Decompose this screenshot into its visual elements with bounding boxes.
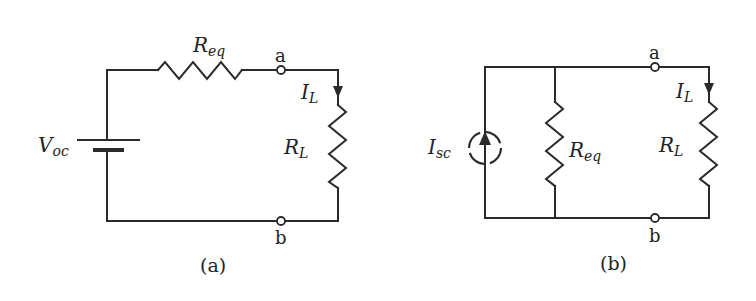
label-node-a: a <box>649 42 660 63</box>
label-voc: Voc <box>38 133 69 159</box>
resistor-rl-load <box>700 102 717 186</box>
label-req: Req <box>568 138 601 164</box>
terminal-b-node <box>651 214 659 222</box>
caption-a: (a) <box>200 254 226 276</box>
battery-short-plate <box>93 148 124 152</box>
terminal-a-node <box>277 66 285 74</box>
label-node-a: a <box>275 45 286 66</box>
label-node-b: b <box>275 227 287 248</box>
label-node-b: b <box>649 225 661 246</box>
wire-bottom <box>107 150 277 221</box>
label-req: Req <box>192 33 225 59</box>
current-arrow-icon <box>704 83 714 95</box>
wire-right-bottom <box>285 188 338 221</box>
label-rl: RL <box>283 135 308 161</box>
resistor-rl-load <box>329 105 346 188</box>
wire-left-top <box>485 67 555 132</box>
norton-circuit: a IL RL Req Isc b (b) <box>427 42 717 274</box>
current-arrow-icon <box>333 86 343 98</box>
terminal-a-node <box>651 63 659 71</box>
terminal-b-node <box>277 217 285 225</box>
wire-left-top <box>107 70 158 140</box>
label-il: IL <box>675 79 693 105</box>
label-il: IL <box>300 80 318 106</box>
caption-b: (b) <box>600 252 627 274</box>
label-isc: Isc <box>427 135 451 161</box>
wire-left-bottom <box>485 164 555 218</box>
thevenin-circuit: Req a IL RL Voc b (a) <box>38 33 346 276</box>
resistor-req-shunt <box>546 102 563 186</box>
circuit-figure: Req a IL RL Voc b (a) <box>0 0 756 301</box>
label-rl: RL <box>658 133 683 159</box>
wire-right-bottom <box>659 186 709 218</box>
resistor-req-series <box>158 62 242 79</box>
